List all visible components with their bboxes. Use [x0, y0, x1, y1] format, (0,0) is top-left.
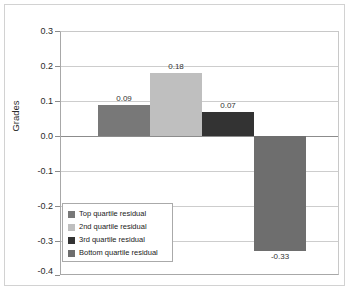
- bar-3rd-quartile-residual[interactable]: [202, 112, 254, 136]
- y-tick-label: -0.4: [23, 267, 53, 276]
- legend-item-top-quartile-residual[interactable]: Top quartile residual: [68, 208, 168, 220]
- legend-swatch-icon: [68, 237, 75, 244]
- y-tick-label: 0.0: [27, 132, 53, 141]
- bar-value-label: -0.33: [254, 253, 306, 261]
- legend-item-label: 3rd quartile residual: [79, 236, 145, 244]
- legend-item-3rd-quartile-residual[interactable]: 3rd quartile residual: [68, 234, 168, 246]
- y-axis-title: Grades: [10, 86, 21, 146]
- y-tick-label: -0.2: [23, 202, 53, 211]
- bar-value-label: 0.09: [98, 95, 150, 103]
- bar-top-quartile-residual[interactable]: [98, 105, 150, 136]
- y-tick-label: 0.2: [27, 62, 53, 71]
- bar-2nd-quartile-residual[interactable]: [150, 73, 202, 136]
- legend-item-label: Bottom quartile residual: [79, 249, 158, 257]
- legend-item-bottom-quartile-residual[interactable]: Bottom quartile residual: [68, 247, 168, 259]
- chart-frame: Grades 0.3 0.2 0.1 0.0 -0.1 -0.2 -0.3 -0…: [4, 4, 345, 286]
- legend-swatch-icon: [68, 250, 75, 257]
- legend-item-label: 2nd quartile residual: [79, 223, 147, 231]
- chart-legend: Top quartile residual 2nd quartile resid…: [62, 203, 173, 262]
- legend-item-label: Top quartile residual: [79, 210, 146, 218]
- y-tick-label: -0.3: [23, 237, 53, 246]
- y-axis-tick: [55, 275, 60, 276]
- legend-item-2nd-quartile-residual[interactable]: 2nd quartile residual: [68, 221, 168, 233]
- bar-bottom-quartile-residual[interactable]: [254, 136, 306, 251]
- bar-value-label: 0.18: [150, 63, 202, 71]
- bar-value-label: 0.07: [202, 102, 254, 110]
- legend-swatch-icon: [68, 211, 75, 218]
- legend-swatch-icon: [68, 224, 75, 231]
- chart-screenshot: Grades 0.3 0.2 0.1 0.0 -0.1 -0.2 -0.3 -0…: [0, 0, 350, 291]
- y-tick-label: -0.1: [23, 167, 53, 176]
- y-tick-label: 0.3: [27, 27, 53, 36]
- y-tick-label: 0.1: [27, 97, 53, 106]
